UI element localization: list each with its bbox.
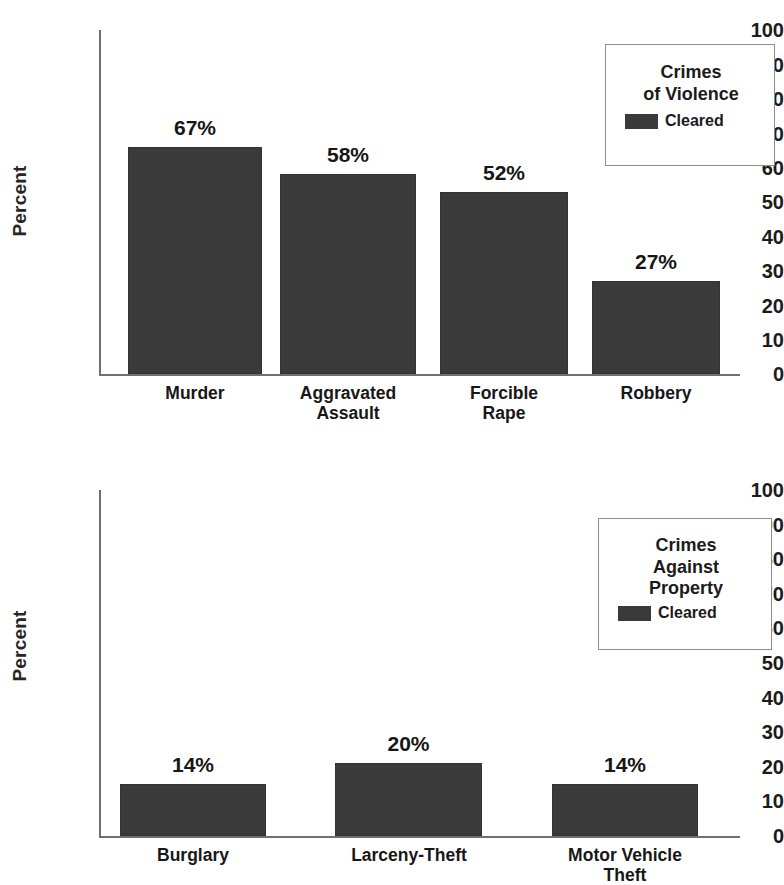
legend-entry-cleared: Cleared <box>618 605 717 621</box>
plot-area-violence: 100 90 80 70 60 50 40 30 20 10 0 67% 58%… <box>0 0 784 440</box>
x-category-label-murder: Murder <box>118 384 272 404</box>
y-axis-line <box>99 490 101 838</box>
legend-swatch-icon <box>625 114 658 129</box>
bar-value-label: 14% <box>120 754 266 775</box>
legend-entry-label: Cleared <box>658 605 717 621</box>
bar-robbery <box>592 281 720 374</box>
legend-crimes-of-violence: Crimes of Violence Cleared <box>605 44 775 166</box>
bar-value-label: 27% <box>592 251 720 272</box>
bar-larceny-theft <box>335 763 482 836</box>
bar-value-label: 20% <box>335 733 482 754</box>
legend-title: Crimes Against Property <box>599 535 773 600</box>
y-tick-label: 50 <box>696 653 784 673</box>
legend-swatch-icon <box>618 606 651 621</box>
legend-title: Crimes of Violence <box>606 62 776 105</box>
chart-crimes-of-violence: Percent 100 90 80 70 60 50 40 30 20 10 0… <box>0 0 784 440</box>
y-tick-label: 40 <box>696 227 784 247</box>
x-axis-line <box>99 374 740 376</box>
y-axis-line <box>99 30 101 376</box>
y-tick-label: 100 <box>696 480 784 500</box>
bar-value-label: 58% <box>280 144 416 165</box>
bar-murder <box>128 147 262 374</box>
x-category-label-robbery: Robbery <box>580 384 732 404</box>
y-tick-label: 20 <box>696 757 784 777</box>
x-category-label-larceny-theft: Larceny-Theft <box>328 846 490 866</box>
bar-aggravated-assault <box>280 174 416 374</box>
x-axis-line <box>99 836 740 838</box>
x-category-label-aggravated-assault: Aggravated Assault <box>268 384 428 424</box>
y-tick-label: 50 <box>696 192 784 212</box>
chart-crimes-against-property: Percent 100 90 80 70 60 50 40 30 20 10 0… <box>0 440 784 885</box>
x-category-label-forcible-rape: Forcible Rape <box>428 384 580 424</box>
y-tick-label: 0 <box>696 826 784 846</box>
bar-burglary <box>120 784 266 836</box>
y-tick-label: 10 <box>696 791 784 811</box>
x-category-label-burglary: Burglary <box>113 846 273 866</box>
legend-crimes-against-property: Crimes Against Property Cleared <box>598 518 772 650</box>
bar-value-label: 67% <box>128 117 262 138</box>
bar-value-label: 14% <box>552 754 698 775</box>
legend-entry-label: Cleared <box>665 113 724 129</box>
legend-entry-cleared: Cleared <box>625 113 724 129</box>
plot-area-property: 100 90 80 70 60 50 40 30 20 10 0 14% 20%… <box>0 440 784 885</box>
y-tick-label: 40 <box>696 688 784 708</box>
bar-motor-vehicle-theft <box>552 784 698 836</box>
bar-forcible-rape <box>440 192 568 374</box>
y-tick-label: 30 <box>696 722 784 742</box>
bar-value-label: 52% <box>440 162 568 183</box>
x-category-label-motor-vehicle-theft: Motor Vehicle Theft <box>545 846 705 885</box>
y-tick-label: 100 <box>696 20 784 40</box>
